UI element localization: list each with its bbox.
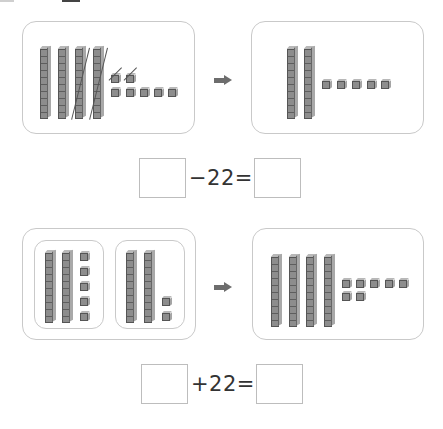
problem1-equation: −22=	[139, 158, 301, 198]
answer-box-addend[interactable]	[141, 364, 188, 404]
problem2-before-panel	[22, 228, 196, 340]
problem1-before-panel	[22, 21, 195, 134]
cropped-answer-box-edge	[62, 0, 80, 2]
ten-rod	[62, 253, 70, 323]
one-unit	[168, 89, 176, 97]
answer-box-result[interactable]	[254, 158, 301, 198]
ten-rod	[304, 49, 312, 119]
one-unit	[342, 293, 350, 301]
one-unit	[154, 89, 162, 97]
one-unit	[399, 280, 407, 288]
answer-box-minuend[interactable]	[139, 158, 186, 198]
one-unit	[80, 268, 88, 276]
one-unit	[356, 293, 364, 301]
ten-rod	[289, 257, 297, 327]
one-unit	[367, 81, 375, 89]
one-unit	[80, 313, 88, 321]
cropped-mark	[0, 0, 14, 2]
group-a-panel	[34, 240, 104, 329]
ten-rod	[126, 253, 134, 323]
one-unit	[140, 89, 148, 97]
ten-rod	[45, 253, 53, 323]
ten-rod	[144, 253, 152, 323]
problem2-equation: +22=	[141, 364, 303, 404]
one-unit	[162, 313, 170, 321]
problem2-after-panel	[252, 228, 424, 340]
ten-rod	[306, 257, 314, 327]
one-unit	[385, 280, 393, 288]
one-unit	[342, 280, 350, 288]
one-unit	[370, 280, 378, 288]
equation-operator-text: −22=	[186, 166, 254, 190]
ten-rod	[58, 49, 66, 119]
one-unit	[80, 253, 88, 261]
ten-rod	[287, 49, 295, 119]
right-arrow-icon	[214, 75, 236, 85]
one-unit	[352, 81, 360, 89]
right-arrow-icon	[214, 282, 236, 292]
one-unit	[337, 81, 345, 89]
one-unit	[381, 81, 389, 89]
one-unit	[80, 298, 88, 306]
group-b-panel	[115, 240, 185, 329]
one-unit	[111, 89, 119, 97]
ten-rod	[271, 257, 279, 327]
one-unit	[356, 280, 364, 288]
equation-operator-text: +22=	[188, 372, 256, 396]
answer-box-sum[interactable]	[256, 364, 303, 404]
one-unit	[126, 89, 134, 97]
one-unit	[80, 283, 88, 291]
ten-rod	[324, 257, 332, 327]
problem1-after-panel	[251, 21, 424, 134]
cropped-header-line	[0, 0, 443, 4]
ten-rod	[40, 49, 48, 119]
one-unit	[162, 298, 170, 306]
one-unit	[322, 81, 330, 89]
